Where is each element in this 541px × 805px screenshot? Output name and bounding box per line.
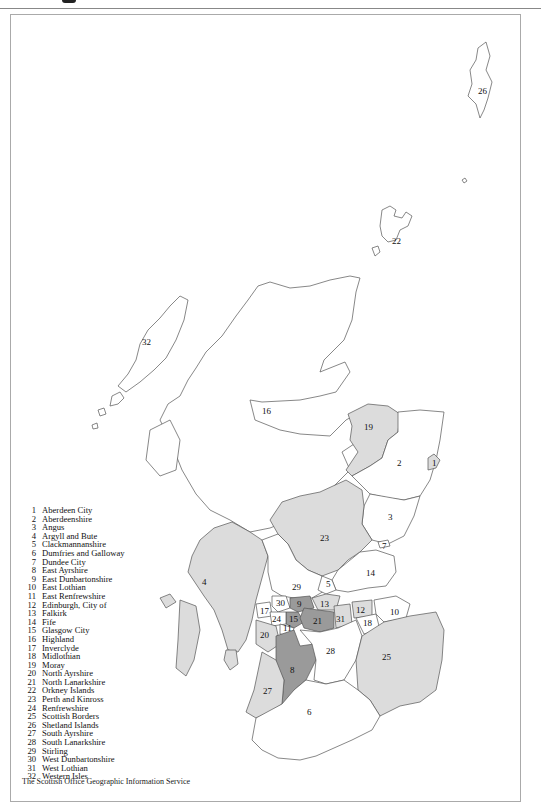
svg-text:16: 16 bbox=[262, 406, 272, 416]
legend-item: 18Midlothian bbox=[22, 652, 125, 661]
svg-text:24: 24 bbox=[272, 614, 282, 624]
legend-item: 13Falkirk bbox=[22, 609, 125, 618]
svg-text:13: 13 bbox=[320, 599, 330, 609]
svg-text:2: 2 bbox=[397, 458, 402, 468]
svg-text:4: 4 bbox=[202, 577, 207, 587]
legend: 1Aberdeen City2Aberdeenshire3Angus4Argyl… bbox=[22, 506, 125, 781]
svg-text:23: 23 bbox=[320, 533, 330, 543]
svg-text:26: 26 bbox=[478, 86, 488, 96]
legend-item: 12Edinburgh, City of bbox=[22, 601, 125, 610]
svg-text:28: 28 bbox=[326, 646, 336, 656]
svg-text:32: 32 bbox=[142, 337, 151, 347]
svg-text:20: 20 bbox=[260, 630, 270, 640]
region-western-isles bbox=[118, 296, 188, 392]
svg-text:27: 27 bbox=[263, 686, 273, 696]
svg-text:22: 22 bbox=[392, 236, 401, 246]
svg-text:3: 3 bbox=[388, 512, 393, 522]
legend-item: 28South Lanarkshire bbox=[22, 738, 125, 747]
svg-text:19: 19 bbox=[364, 422, 374, 432]
svg-text:29: 29 bbox=[292, 582, 302, 592]
svg-text:8: 8 bbox=[290, 665, 295, 675]
svg-text:25: 25 bbox=[382, 652, 392, 662]
svg-text:14: 14 bbox=[366, 568, 376, 578]
svg-text:21: 21 bbox=[313, 616, 322, 626]
svg-text:11: 11 bbox=[283, 623, 292, 633]
svg-text:15: 15 bbox=[289, 614, 299, 624]
svg-text:9: 9 bbox=[297, 599, 302, 609]
region-shetland-islands bbox=[468, 42, 492, 118]
legend-item: 2Aberdeenshire bbox=[22, 515, 125, 524]
svg-text:1: 1 bbox=[432, 458, 437, 468]
svg-text:31: 31 bbox=[336, 614, 345, 624]
svg-text:10: 10 bbox=[390, 607, 400, 617]
svg-text:18: 18 bbox=[363, 618, 373, 628]
svg-text:5: 5 bbox=[326, 579, 331, 589]
svg-text:7: 7 bbox=[382, 541, 387, 551]
svg-text:17: 17 bbox=[260, 606, 270, 616]
svg-text:30: 30 bbox=[276, 598, 286, 608]
svg-text:6: 6 bbox=[307, 707, 312, 717]
credit-text: The Scottish Office Geographic Informati… bbox=[22, 777, 190, 786]
svg-text:12: 12 bbox=[356, 605, 365, 615]
